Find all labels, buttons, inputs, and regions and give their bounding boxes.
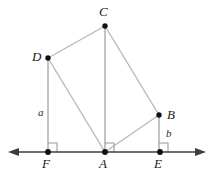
segment-DC bbox=[48, 26, 105, 58]
geometry-figure: C D B F A E a b bbox=[0, 0, 213, 172]
vertex-dot-E bbox=[157, 149, 163, 155]
vertex-dot-C bbox=[102, 23, 107, 28]
vertex-dot-A bbox=[102, 149, 108, 155]
vertex-dot-D bbox=[45, 55, 50, 60]
segment-DA bbox=[48, 58, 105, 152]
vertex-label-C: C bbox=[99, 5, 108, 18]
axis-arrow-left-icon bbox=[8, 148, 19, 156]
vertex-dot-group bbox=[45, 23, 163, 155]
vertex-dot-F bbox=[45, 149, 51, 155]
vertex-label-A: A bbox=[99, 157, 107, 170]
vertex-label-E: E bbox=[154, 157, 162, 170]
vertex-label-F: F bbox=[42, 157, 50, 170]
length-label-a: a bbox=[38, 107, 44, 118]
vertex-label-D: D bbox=[32, 50, 41, 63]
figure-canvas bbox=[0, 0, 213, 172]
vertex-label-B: B bbox=[167, 108, 175, 121]
segment-group-vertical bbox=[48, 26, 159, 152]
axis-arrow-right-icon bbox=[195, 148, 206, 156]
segment-AB bbox=[105, 115, 159, 152]
segment-CB bbox=[105, 26, 159, 115]
segment-group-slanted bbox=[48, 26, 159, 152]
length-label-b: b bbox=[166, 128, 172, 139]
vertex-dot-B bbox=[156, 112, 161, 117]
